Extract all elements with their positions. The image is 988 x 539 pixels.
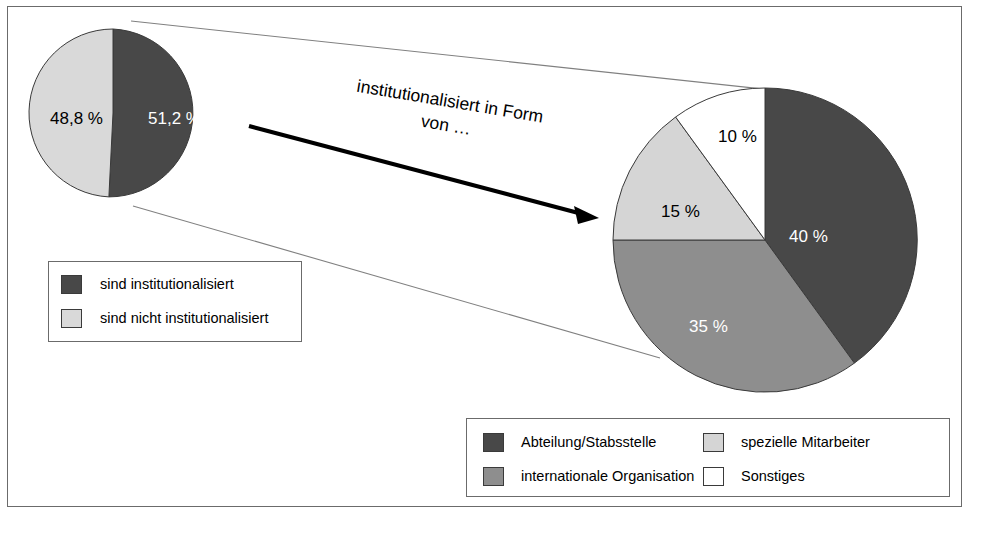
right-pie-label-internationale: 35 % — [689, 318, 728, 335]
legend-swatch-spezielle-mitarbeiter — [703, 433, 724, 452]
legend-label-abteilung-stabsstelle: Abteilung/Stabsstelle — [521, 435, 656, 450]
legend-swatch-nicht-institutionalisiert — [61, 309, 82, 328]
right-pie-chart — [613, 88, 917, 392]
legend-label-nicht-institutionalisiert: sind nicht institutionalisiert — [100, 311, 268, 326]
legend-label-internationale-organisation: internationale Organisation — [521, 469, 694, 484]
legend-swatch-abteilung-stabsstelle — [483, 433, 504, 452]
legend-label-spezielle-mitarbeiter: spezielle Mitarbeiter — [741, 435, 870, 450]
legend-item-sonstiges[interactable]: Sonstiges — [703, 459, 949, 493]
left-pie-label-institutionalisiert: 51,2 % — [148, 110, 201, 127]
right-pie-label-spezielle: 15 % — [661, 203, 700, 220]
connector-line-top — [131, 21, 772, 90]
legend-item-internationale-organisation[interactable]: internationale Organisation — [483, 459, 703, 493]
legend-swatch-institutionalisiert — [61, 275, 82, 294]
legend-item-spezielle-mitarbeiter[interactable]: spezielle Mitarbeiter — [703, 425, 949, 459]
right-pie-label-abteilung: 40 % — [789, 228, 828, 245]
legend-swatch-internationale-organisation — [483, 467, 504, 486]
legend-label-institutionalisiert: sind institutionalisiert — [100, 277, 234, 292]
legend-item-sind-nicht-institutionalisiert[interactable]: sind nicht institutionalisiert — [61, 301, 301, 335]
right-pie-label-sonstiges: 10 % — [718, 128, 757, 145]
legend-swatch-sonstiges — [703, 467, 724, 486]
legend-label-sonstiges: Sonstiges — [741, 469, 805, 484]
legend-item-abteilung-stabsstelle[interactable]: Abteilung/Stabsstelle — [483, 425, 703, 459]
left-pie-label-nicht-institutionalisiert: 48,8 % — [50, 110, 103, 127]
legend-right: Abteilung/Stabsstelle spezielle Mitarbei… — [466, 418, 950, 497]
legend-item-sind-institutionalisiert[interactable]: sind institutionalisiert — [61, 267, 301, 301]
chart-page: institutionalisiert in Form von … 51,2 %… — [0, 0, 988, 539]
legend-left: sind institutionalisiert sind nicht inst… — [48, 261, 302, 342]
